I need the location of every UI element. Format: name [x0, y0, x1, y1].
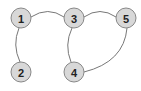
- node-2[interactable]: 2: [11, 62, 31, 82]
- node-3[interactable]: 3: [64, 8, 84, 28]
- graph-diagram: 1 2 3 4 5: [0, 0, 141, 91]
- node-4-label: 4: [71, 67, 78, 79]
- node-1[interactable]: 1: [11, 8, 31, 28]
- edge-1-3: [31, 12, 64, 18]
- node-2-label: 2: [18, 67, 24, 79]
- edge-1-2: [16, 28, 20, 62]
- edge-5-4: [84, 28, 127, 72]
- node-1-label: 1: [18, 13, 24, 25]
- node-3-label: 3: [71, 13, 77, 25]
- edge-3-5: [84, 12, 116, 18]
- node-5-label: 5: [123, 13, 129, 25]
- node-5[interactable]: 5: [116, 8, 136, 28]
- edge-3-4: [68, 28, 72, 62]
- nodes: 1 2 3 4 5: [11, 8, 136, 82]
- node-4[interactable]: 4: [64, 62, 84, 82]
